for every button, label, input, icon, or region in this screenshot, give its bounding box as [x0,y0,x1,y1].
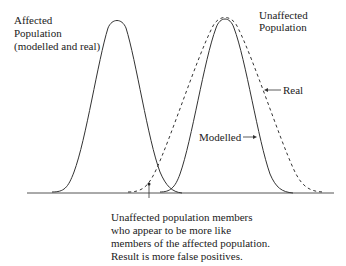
modelled-arrow-head [253,135,257,139]
unaffected-real-curve [128,18,325,193]
unaffected-modelled-curve [160,19,293,193]
affected-label-line3: (modelled and real) [14,40,100,53]
real-arrow-head [264,88,268,92]
caption-line2: who appear to be more like [111,224,231,237]
caption-line4: Result is more false positives. [111,250,243,263]
overlap-pointer-dot [148,183,151,186]
modelled-label: Modelled [199,131,241,144]
caption-line3: members of the affected population. [111,237,270,250]
affected-label-line2: Population [14,27,62,40]
real-label: Real [283,84,303,97]
caption-line1: Unaffected population members [111,211,253,224]
unaffected-label-line2: Population [259,21,307,34]
affected-label-line1: Affected [14,14,52,27]
